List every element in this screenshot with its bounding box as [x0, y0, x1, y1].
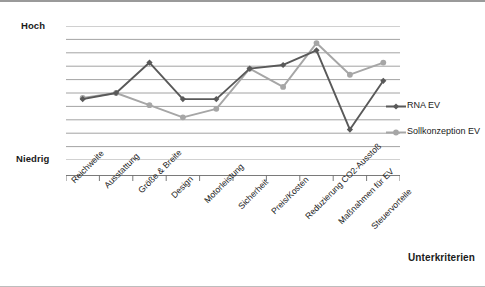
data-point	[347, 72, 353, 78]
legend-item-1[interactable]: RNA EV	[386, 100, 485, 112]
data-point	[147, 102, 153, 108]
legend-swatch-icon	[386, 101, 406, 112]
legend-swatch-icon	[386, 127, 406, 138]
data-point	[280, 62, 286, 68]
legend-label: Sollkonzeption EV	[406, 126, 480, 137]
plot-area	[66, 26, 400, 160]
chart-container: Hoch Niedrig Unterkriterien ReichweiteAu…	[0, 0, 485, 287]
data-point	[213, 106, 219, 112]
data-point	[180, 114, 186, 120]
legend-label: RNA EV	[406, 100, 440, 111]
chart-legend: RNA EVSollkonzeption EV	[386, 100, 485, 152]
x-axis-title: Unterkriterien	[408, 252, 475, 263]
y-axis-low-label: Niedrig	[16, 153, 49, 164]
legend-item-2[interactable]: Sollkonzeption EV	[386, 126, 485, 138]
data-point	[380, 60, 386, 66]
data-point	[314, 40, 320, 46]
data-point	[280, 84, 286, 90]
chart-svg	[66, 26, 400, 160]
y-axis-high-label: Hoch	[21, 20, 45, 31]
